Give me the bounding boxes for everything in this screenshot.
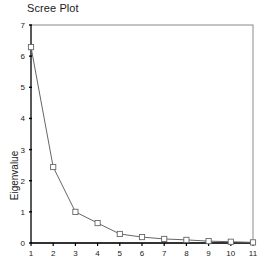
data-point-marker (95, 220, 100, 225)
svg-text:2: 2 (21, 177, 26, 186)
data-point-marker (28, 45, 33, 50)
data-point-marker (117, 231, 122, 236)
plot-frame (31, 25, 253, 243)
svg-text:0: 0 (21, 239, 26, 248)
svg-text:3: 3 (73, 249, 78, 258)
data-series-line (31, 47, 253, 242)
x-axis-ticks: 1234567891011 (29, 243, 258, 258)
data-point-marker (73, 209, 78, 214)
data-point-marker (250, 240, 255, 245)
svg-text:4: 4 (21, 114, 26, 123)
data-point-marker (51, 164, 56, 169)
svg-text:6: 6 (21, 52, 26, 61)
svg-text:8: 8 (184, 249, 189, 258)
svg-text:5: 5 (118, 249, 123, 258)
svg-text:7: 7 (162, 249, 167, 258)
svg-text:5: 5 (21, 83, 26, 92)
svg-text:1: 1 (29, 249, 34, 258)
svg-text:11: 11 (249, 249, 258, 258)
data-point-markers (28, 45, 255, 245)
svg-text:10: 10 (226, 249, 235, 258)
data-point-marker (206, 239, 211, 244)
svg-text:3: 3 (21, 146, 26, 155)
svg-text:2: 2 (51, 249, 56, 258)
y-axis-ticks: 01234567 (21, 21, 32, 248)
svg-text:9: 9 (206, 249, 211, 258)
scree-plot-figure: Scree Plot Eigenvalue 01234567 123456789… (0, 0, 266, 278)
data-point-marker (162, 236, 167, 241)
svg-text:6: 6 (140, 249, 145, 258)
data-point-marker (228, 239, 233, 244)
svg-text:7: 7 (21, 21, 26, 30)
svg-text:4: 4 (95, 249, 100, 258)
svg-text:1: 1 (21, 208, 26, 217)
data-point-marker (139, 234, 144, 239)
data-point-marker (184, 237, 189, 242)
plot-canvas: 01234567 1234567891011 (0, 0, 266, 278)
